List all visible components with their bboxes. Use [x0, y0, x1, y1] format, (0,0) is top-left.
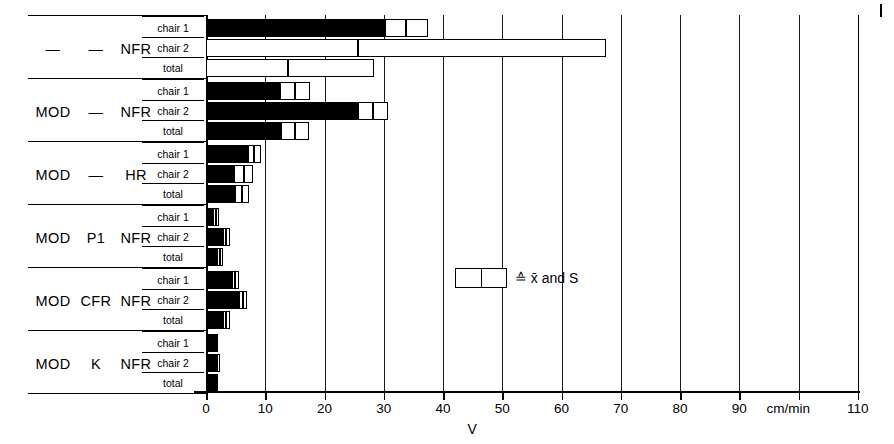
sd-box-high-4-1	[216, 208, 219, 226]
row-label-underline	[142, 352, 204, 353]
sd-box-high-5-2	[243, 291, 247, 309]
row-label-underline	[142, 142, 204, 143]
row-label-chair-2: chair 2	[142, 105, 204, 117]
group-label-part-2: CFR	[76, 291, 116, 311]
gridline-40	[443, 15, 444, 391]
x-tick-label-20: 20	[305, 401, 345, 416]
gridline-60	[562, 15, 563, 391]
x-tick-label-110: 110	[838, 401, 878, 416]
sd-box-low-1-1	[385, 19, 406, 37]
group-label-part-1: —	[30, 39, 76, 59]
sd-box-low-2-2	[358, 102, 373, 120]
group-label-3: MOD—HR	[30, 165, 142, 185]
row-label-underline	[142, 289, 204, 290]
sd-box-high-2-1	[295, 82, 310, 100]
gridline-110	[858, 15, 860, 391]
sd-box-high-3-2	[244, 165, 254, 183]
row-label-chair-1: chair 1	[142, 22, 204, 34]
row-label-chair-1: chair 1	[142, 85, 204, 97]
row-label-chair-2: chair 2	[142, 42, 204, 54]
sd-box-high-4-3	[220, 248, 223, 266]
bar-mean-5-2	[206, 291, 243, 309]
bar-chart: ——NFRchair 1chair 2totalMOD—NFRchair 1ch…	[0, 0, 894, 444]
row-label-chair-1: chair 1	[142, 211, 204, 223]
group-label-part-2: —	[76, 165, 116, 185]
row-label-underline	[142, 79, 204, 80]
row-label-underline	[142, 120, 204, 121]
x-tick-label-30: 30	[364, 401, 404, 416]
x-tick-label-80: 80	[660, 401, 700, 416]
sd-box-low-2-3	[281, 122, 295, 140]
gridline-30	[384, 15, 385, 391]
x-axis-unit-label: cm/min	[767, 401, 811, 416]
row-label-underline	[142, 100, 204, 101]
row-label-total: total	[142, 314, 204, 326]
sd-box-high-4-2	[226, 228, 230, 246]
group-label-part-1: MOD	[30, 102, 76, 122]
row-label-underline	[142, 268, 204, 269]
group-label-1: ——NFR	[30, 39, 142, 59]
page-corner-mark	[880, 4, 882, 17]
x-tick-label-40: 40	[423, 401, 463, 416]
group-label-part-2: —	[76, 102, 116, 122]
row-label-underline	[142, 226, 204, 227]
x-axis-line	[194, 391, 860, 393]
x-tick-10	[265, 393, 267, 400]
x-tick-label-0: 0	[186, 401, 226, 416]
sd-box-high-3-3	[242, 185, 249, 203]
row-label-chair-2: chair 2	[142, 294, 204, 306]
x-tick-90	[739, 393, 741, 400]
row-label-underline	[142, 205, 204, 206]
sd-box-high-1-3	[288, 59, 375, 77]
sd-box-high-6-3	[216, 374, 218, 392]
x-tick-30	[384, 393, 386, 400]
legend-label: ≙ x̄ and S	[515, 270, 578, 286]
x-tick-label-90: 90	[719, 401, 759, 416]
group-label-part-1: MOD	[30, 354, 76, 374]
x-tick-20	[325, 393, 327, 400]
x-tick-0	[206, 393, 208, 400]
gridline-90	[739, 15, 740, 391]
sd-box-low-1-2	[206, 39, 358, 57]
sd-box-low-2-1	[280, 82, 295, 100]
x-tick-label-60: 60	[542, 401, 582, 416]
sd-box-high-5-3	[226, 311, 230, 329]
x-tick-70	[621, 393, 623, 400]
sd-box-high-1-2	[358, 39, 607, 57]
row-label-chair-1: chair 1	[142, 148, 204, 160]
group-label-6: MODKNFR	[30, 354, 142, 374]
x-tick-label-50: 50	[482, 401, 522, 416]
row-label-chair-1: chair 1	[142, 337, 204, 349]
group-label-part-1: MOD	[30, 291, 76, 311]
x-tick-110	[858, 393, 860, 400]
row-label-chair-1: chair 1	[142, 274, 204, 286]
row-label-chair-2: chair 2	[142, 231, 204, 243]
sd-box-high-1-1	[406, 19, 427, 37]
group-label-5: MODCFRNFR	[30, 291, 142, 311]
group-label-part-2: K	[76, 354, 116, 374]
row-label-underline	[142, 163, 204, 164]
row-label-total: total	[142, 377, 204, 389]
sd-box-high-6-1	[216, 334, 218, 352]
sd-box-low-1-3	[206, 59, 288, 77]
row-label-underline	[142, 183, 204, 184]
x-axis-variable-label: V	[468, 421, 477, 437]
sd-box-high-5-1	[235, 271, 239, 289]
legend-box-divider	[481, 268, 482, 288]
row-label-total: total	[142, 251, 204, 263]
x-tick-label-70: 70	[601, 401, 641, 416]
row-label-total: total	[142, 188, 204, 200]
x-tick-40	[443, 393, 445, 400]
x-tick-60	[562, 393, 564, 400]
sd-box-high-2-2	[373, 102, 388, 120]
sd-box-high-2-3	[295, 122, 309, 140]
row-label-underline	[142, 309, 204, 310]
row-label-underline	[142, 57, 204, 58]
x-tick-80	[680, 393, 682, 400]
group-label-4: MODP1NFR	[30, 228, 142, 248]
row-label-underline	[142, 16, 204, 17]
gridline-70	[621, 15, 622, 391]
row-label-underline	[142, 331, 204, 332]
row-label-chair-2: chair 2	[142, 357, 204, 369]
row-label-underline	[142, 372, 204, 373]
